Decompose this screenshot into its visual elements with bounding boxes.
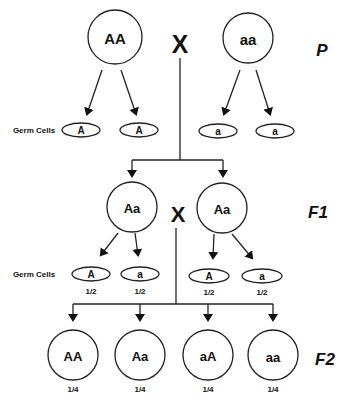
- arrow-icon: [121, 70, 136, 114]
- f2-genotype: AA: [64, 349, 83, 364]
- gamete-allele: a: [215, 126, 221, 137]
- f2-probability: 1/4: [267, 385, 278, 394]
- f2-genotype: aa: [266, 350, 280, 365]
- gamete-allele: a: [272, 126, 278, 137]
- f2-probability: 1/4: [67, 385, 78, 394]
- cross-symbol: X: [172, 29, 188, 60]
- f2-probability: 1/4: [134, 385, 145, 394]
- gamete-allele: A: [77, 125, 84, 136]
- cross-symbol: X: [171, 202, 186, 228]
- arrow-icon: [232, 234, 252, 258]
- generation-label-f1: F1: [308, 203, 328, 223]
- f2-genotype: Aa: [132, 349, 149, 364]
- generation-label-p: P: [316, 41, 327, 61]
- gamete-allele: A: [205, 271, 212, 282]
- arrow-icon: [135, 233, 138, 255]
- gamete-probability: 1/2: [134, 287, 145, 296]
- f1-left-genotype: Aa: [124, 201, 141, 216]
- arrow-icon: [87, 70, 102, 114]
- parent-left-genotype: AA: [104, 30, 126, 47]
- gamete-allele: a: [137, 269, 143, 280]
- f2-genotype: aA: [200, 349, 217, 364]
- germ-cells-label: Germ Cells: [13, 126, 55, 135]
- arrow-icon: [101, 233, 118, 255]
- gamete-probability: 1/2: [203, 288, 214, 297]
- germ-cells-label: Germ Cells: [13, 270, 55, 279]
- parent-right-genotype: aa: [240, 31, 257, 48]
- gamete-probability: 1/2: [85, 287, 96, 296]
- gamete-allele: A: [87, 269, 94, 280]
- f2-probability: 1/4: [202, 385, 213, 394]
- gamete-probability: 1/2: [256, 288, 267, 297]
- gamete-allele: A: [135, 125, 142, 136]
- generation-label-f2: F2: [315, 350, 335, 370]
- f1-right-genotype: Aa: [214, 202, 231, 217]
- arrow-icon: [224, 70, 240, 114]
- arrow-icon: [213, 234, 214, 258]
- gamete-allele: a: [259, 271, 265, 282]
- arrow-icon: [256, 70, 270, 114]
